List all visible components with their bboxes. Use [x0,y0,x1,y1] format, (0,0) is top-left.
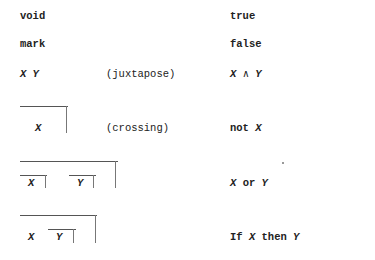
or-y-line-top [69,175,96,176]
cross-line-top [20,106,68,107]
or-outer-line-top [20,161,118,162]
expr-mark: mark [20,38,45,50]
not-x: X [255,122,261,134]
or-left-x: X [28,177,34,189]
or-x-line-side [45,175,46,188]
expr-crossing-x: X [35,122,41,134]
then-word: then [262,231,287,243]
if-left-x: X [28,231,34,243]
note-crossing: (crossing) [106,122,169,134]
and-operator: ∧ [243,68,249,80]
meaning-and: X ∧ Y [230,68,262,80]
if-outer-line-top [20,215,97,216]
cross-line-side [66,106,67,133]
or-left-y: Y [77,177,83,189]
if-y-line-top [48,229,76,230]
or-x-line-top [20,175,47,176]
not-word: not [230,122,249,134]
if-y: Y [293,231,299,243]
meaning-not: not X [230,122,262,134]
if-x: X [249,231,255,243]
if-left-y: Y [56,231,62,243]
expr-void: void [20,10,45,22]
stray-dot [282,162,284,164]
expr-juxtapose: X Y [20,68,39,80]
meaning-true: true [230,10,255,22]
and-y: Y [255,68,261,80]
or-y-line-side [93,175,94,188]
or-x: X [230,177,236,189]
and-x: X [230,68,236,80]
note-juxtapose: (juxtapose) [106,68,175,80]
or-y: Y [262,177,268,189]
or-word: or [243,177,256,189]
meaning-false: false [230,38,262,50]
meaning-if-then: If X then Y [230,231,299,243]
if-outer-line-side [95,215,96,243]
if-y-line-side [73,229,74,243]
meaning-or: X or Y [230,177,268,189]
if-word: If [230,231,243,243]
or-outer-line-side [115,161,116,188]
